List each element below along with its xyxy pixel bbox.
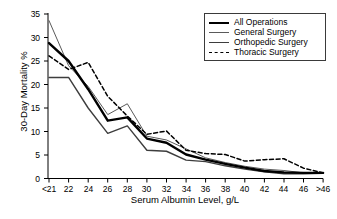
legend-item-thoracic-surgery: Thoracic Surgery (209, 47, 321, 57)
legend-item-orthopedic-surgery: Orthopedic Surgery (209, 37, 321, 47)
legend-label: Thoracic Surgery (234, 47, 299, 57)
x-axis-label: Serum Albumin Level, g/L (40, 194, 330, 205)
legend-label: All Operations (234, 17, 287, 27)
legend-swatch-solid-thin-icon (209, 27, 229, 37)
legend-swatch-solid-thick-icon (209, 17, 229, 27)
x-tick-marks (49, 179, 323, 183)
legend-item-general-surgery: General Surgery (209, 27, 321, 37)
legend-label: Orthopedic Surgery (234, 37, 308, 47)
legend-swatch-solid-medium-icon (209, 37, 229, 47)
y-axis-label: 30-Day Mortality % (18, 22, 29, 162)
y-tick-label: 0 (22, 174, 40, 184)
x-tick-label: >46 (311, 184, 335, 194)
series-line-all-operations (49, 43, 323, 173)
y-tick-label: 35 (22, 9, 40, 19)
legend-label: General Surgery (234, 27, 296, 37)
legend-swatch-dashed-icon (209, 47, 229, 57)
y-tick-marks (44, 14, 48, 179)
chart-legend: All Operations General Surgery Orthopedi… (204, 13, 326, 61)
legend-item-all-operations: All Operations (209, 17, 321, 27)
chart-figure: 35 30 25 20 15 10 5 0 <21 22 24 26 28 30… (0, 0, 337, 219)
